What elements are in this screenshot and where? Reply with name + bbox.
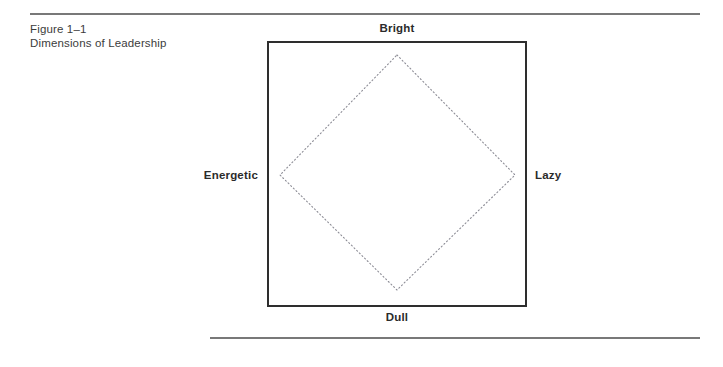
axis-label-top: Bright xyxy=(267,22,527,34)
figure-title: Dimensions of Leadership xyxy=(30,36,167,50)
axis-label-right: Lazy xyxy=(535,169,561,181)
diamond-outline xyxy=(280,55,515,290)
footer-rule xyxy=(210,337,700,339)
header-rule xyxy=(30,13,700,15)
axis-label-bottom: Dull xyxy=(267,311,527,323)
figure-number: Figure 1–1 xyxy=(30,22,167,36)
axis-label-left: Energetic xyxy=(204,169,258,181)
leadership-dimensions-diagram xyxy=(267,41,527,307)
dotted-diamond xyxy=(267,41,527,307)
figure-caption: Figure 1–1 Dimensions of Leadership xyxy=(30,22,167,50)
figure-page: { "figure": { "caption_lines": [ "Figure… xyxy=(0,0,723,367)
